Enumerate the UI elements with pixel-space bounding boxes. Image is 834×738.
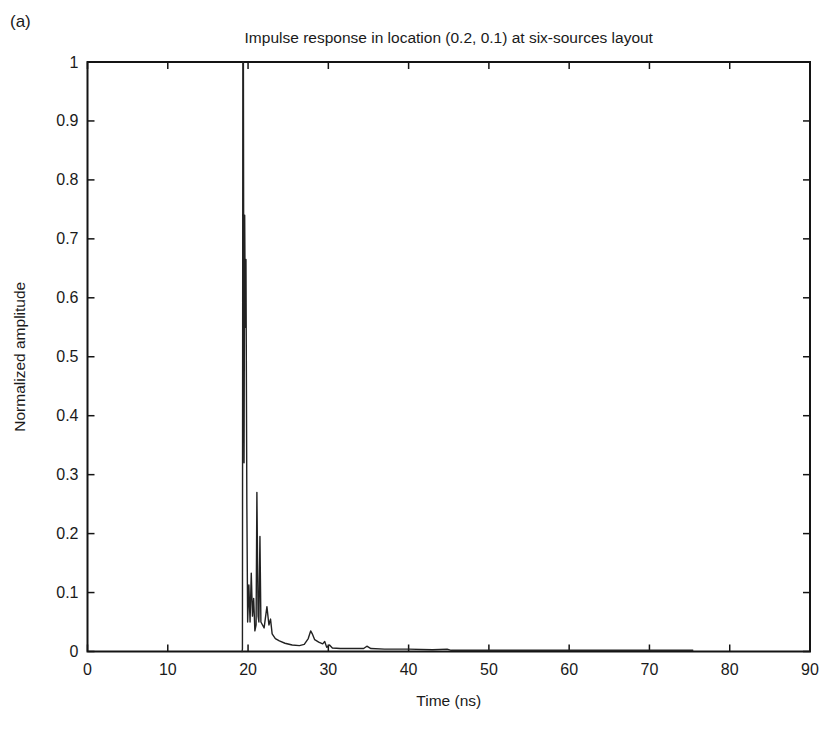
plot-area: 010203040506070809000.10.20.30.40.50.60.… xyxy=(56,54,819,678)
impulse-response-chart: (a) Impulse response in location (0.2, 0… xyxy=(0,0,834,738)
figure-label: (a) xyxy=(10,12,31,31)
y-axis-label: Normalized amplitude xyxy=(11,282,28,432)
x-tick-label: 30 xyxy=(319,661,337,678)
figure-panel: (a) Impulse response in location (0.2, 0… xyxy=(0,0,834,738)
x-tick-label: 50 xyxy=(480,661,498,678)
data-line xyxy=(242,62,693,652)
y-tick-label: 0.6 xyxy=(56,289,78,306)
x-tick-label: 20 xyxy=(239,661,257,678)
y-tick-label: 0.8 xyxy=(56,171,78,188)
x-tick-label: 60 xyxy=(560,661,578,678)
y-tick-label: 0.3 xyxy=(56,466,78,483)
x-tick-label: 40 xyxy=(400,661,418,678)
y-tick-label: 0.9 xyxy=(56,112,78,129)
y-tick-label: 0.5 xyxy=(56,348,78,365)
x-tick-label: 0 xyxy=(83,661,92,678)
y-tick-label: 0.7 xyxy=(56,230,78,247)
chart-title: Impulse response in location (0.2, 0.1) … xyxy=(245,29,654,46)
plot-frame xyxy=(88,62,811,652)
y-tick-label: 1 xyxy=(70,54,79,71)
x-tick-label: 70 xyxy=(641,661,659,678)
x-tick-label: 80 xyxy=(721,661,739,678)
x-axis-label: Time (ns) xyxy=(416,692,481,709)
x-tick-label: 90 xyxy=(801,661,819,678)
y-tick-label: 0.1 xyxy=(56,584,78,601)
y-tick-label: 0.4 xyxy=(56,407,78,424)
y-tick-label: 0.2 xyxy=(56,525,78,542)
x-tick-label: 10 xyxy=(159,661,177,678)
y-tick-label: 0 xyxy=(70,643,79,660)
